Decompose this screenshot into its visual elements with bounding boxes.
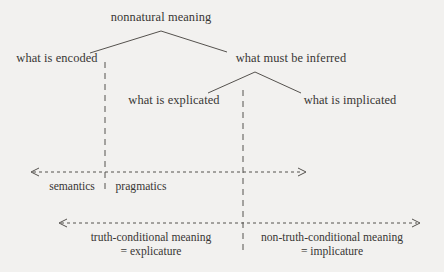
node-what-must-be-inferred: what must be inferred [236,51,346,65]
tree-branch-inferred [208,72,301,93]
label-non-truth-conditional-meaning: non-truth-conditional meaning = implicat… [261,231,403,259]
label-truth-conditional-line2: = explicature [91,245,212,259]
node-what-is-explicated: what is explicated [128,93,219,107]
branch-root-to-inferred [161,31,227,52]
arrowhead-right-scale-1 [298,168,306,176]
label-pragmatics: pragmatics [116,180,167,194]
branch-root-to-encoded [90,31,161,53]
branch-inferred-to-implicated [255,72,301,93]
node-nonnatural-meaning: nonnatural meaning [111,10,212,24]
arrowhead-left-scale-2 [59,219,67,227]
label-truth-conditional-line1: truth-conditional meaning [91,231,212,245]
arrowhead-left-scale-1 [31,168,39,176]
label-non-truth-conditional-line2: = implicature [261,245,403,259]
tree-branch-root [90,31,227,53]
arrowhead-right-scale-2 [412,219,420,227]
node-what-is-encoded: what is encoded [16,51,97,65]
label-semantics: semantics [49,180,95,194]
nonnatural-meaning-diagram: nonnatural meaning what is encoded what … [0,0,444,272]
label-non-truth-conditional-line1: non-truth-conditional meaning [261,231,403,245]
branch-inferred-to-explicated [208,72,255,93]
semantics-pragmatics-scale [31,168,306,176]
truth-conditional-scale [59,219,420,227]
label-pragmatics-text: pragmatics [116,180,167,193]
label-truth-conditional-meaning: truth-conditional meaning = explicature [91,231,212,259]
node-what-is-implicated: what is implicated [304,93,397,107]
